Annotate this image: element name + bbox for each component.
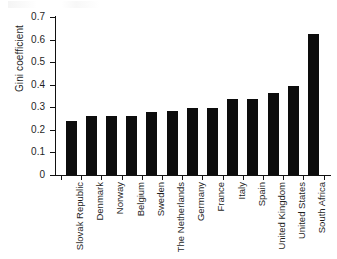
x-tick-label-text: South Africa — [317, 182, 327, 233]
bar — [227, 99, 238, 175]
x-tick-label-text: Denmark — [95, 182, 105, 221]
y-tick-label: 0 — [5, 170, 45, 180]
x-tick-label-text: United States — [297, 182, 307, 239]
x-tick-label-text: France — [216, 182, 226, 212]
x-tick-label: Spain — [257, 182, 267, 206]
x-tick-label: Denmark — [95, 182, 105, 221]
x-tick-label: Sweden — [156, 182, 166, 216]
x-tick-mark — [162, 176, 163, 180]
x-tick-label-text: Germany — [196, 182, 206, 221]
bar — [187, 108, 198, 175]
bar — [66, 121, 77, 175]
x-tick-label-text: United Kingdom — [277, 182, 287, 250]
x-tick-label-text: Slovak Republic — [75, 182, 85, 250]
bar — [268, 93, 279, 175]
x-tick-label: Italy — [237, 182, 247, 199]
x-tick-label: Belgium — [136, 182, 146, 216]
x-tick-mark — [61, 176, 62, 180]
y-tick-label: 0.5 — [5, 57, 45, 67]
x-tick-mark — [324, 176, 325, 180]
x-tick-label: The Netherlands — [176, 182, 186, 252]
x-tick-label-text: The Netherlands — [176, 182, 186, 252]
x-tick-label-text: Sweden — [156, 182, 166, 216]
x-tick-mark — [202, 176, 203, 180]
x-tick-label-text: Norway — [115, 182, 125, 214]
y-tick-label: 0.1 — [5, 147, 45, 157]
y-tick-label: 0.3 — [5, 102, 45, 112]
x-tick-mark — [223, 176, 224, 180]
x-tick-label: United Kingdom — [277, 182, 287, 250]
x-tick-mark — [142, 176, 143, 180]
bar — [126, 116, 137, 175]
bar — [106, 116, 117, 175]
x-tick-mark — [263, 176, 264, 180]
bar — [308, 34, 319, 175]
x-tick-label: Germany — [196, 182, 206, 221]
x-tick-label-text: Italy — [237, 182, 247, 199]
x-tick-mark — [243, 176, 244, 180]
bar — [207, 108, 218, 175]
x-tick-label: Norway — [115, 182, 125, 214]
x-tick-label: United States — [297, 182, 307, 239]
x-tick-mark — [303, 176, 304, 180]
bar — [288, 86, 299, 175]
y-tick-label: 0.6 — [5, 35, 45, 45]
bar — [146, 112, 157, 175]
bar — [247, 99, 258, 175]
y-tick-label: 0.4 — [5, 80, 45, 90]
x-tick-mark — [101, 176, 102, 180]
x-axis-line — [55, 175, 331, 176]
x-tick-mark — [182, 176, 183, 180]
y-tick-label: 0.2 — [5, 125, 45, 135]
y-tick-label: 0.7 — [5, 12, 45, 22]
x-tick-label-text: Spain — [257, 182, 267, 206]
bars-layer — [55, 17, 330, 175]
bar — [167, 111, 178, 175]
gini-coefficient-bar-chart: Gini coefficient 00.10.20.30.40.50.60.7 … — [0, 0, 337, 259]
y-tick-mark — [50, 175, 55, 176]
x-tick-label: South Africa — [317, 182, 327, 233]
x-tick-mark — [283, 176, 284, 180]
bar — [86, 116, 97, 175]
x-tick-label: Slovak Republic — [75, 182, 85, 250]
x-tick-mark — [81, 176, 82, 180]
x-tick-label: France — [216, 182, 226, 212]
x-tick-mark — [122, 176, 123, 180]
x-tick-label-text: Belgium — [136, 182, 146, 216]
